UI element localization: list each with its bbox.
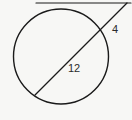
geometry-canvas bbox=[0, 0, 132, 120]
secant-line bbox=[35, 3, 127, 95]
chord-length-label: 12 bbox=[68, 63, 80, 74]
geometry-figure: 12 4 bbox=[0, 0, 132, 120]
circle bbox=[14, 9, 109, 104]
external-segment-label: 4 bbox=[112, 24, 118, 35]
